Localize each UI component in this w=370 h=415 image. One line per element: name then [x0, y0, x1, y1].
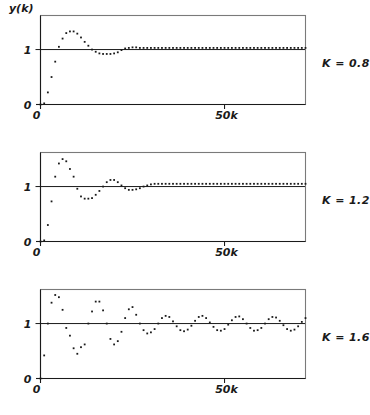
- data-point: [150, 47, 152, 49]
- data-point: [260, 327, 262, 329]
- data-point: [80, 196, 82, 198]
- data-point: [157, 183, 159, 185]
- data-point: [73, 31, 75, 33]
- data-point: [271, 183, 273, 185]
- data-point: [132, 46, 134, 48]
- data-point: [172, 320, 174, 322]
- data-point: [183, 183, 185, 185]
- data-point: [40, 378, 42, 380]
- data-point: [198, 183, 200, 185]
- data-point: [106, 181, 108, 183]
- data-point: [216, 329, 218, 331]
- data-point: [146, 47, 148, 49]
- y-axis-label: y(k): [9, 2, 34, 15]
- data-point: [84, 41, 86, 43]
- data-point: [249, 327, 251, 329]
- data-point: [168, 47, 170, 49]
- data-point: [202, 47, 204, 49]
- data-point: [124, 48, 126, 50]
- data-point: [124, 187, 126, 189]
- data-point: [246, 323, 248, 325]
- data-point: [135, 188, 137, 190]
- data-point: [176, 47, 178, 49]
- data-point: [43, 103, 45, 105]
- xtick-label-50k: 50k: [215, 246, 238, 259]
- data-point: [227, 324, 229, 326]
- data-point: [231, 319, 233, 321]
- data-point: [224, 47, 226, 49]
- data-point: [172, 47, 174, 49]
- series-label-k12: K = 1.2: [322, 194, 370, 207]
- data-point: [286, 328, 288, 330]
- chart-svg-k16: 050k01: [0, 274, 369, 409]
- data-point: [235, 316, 237, 318]
- data-point: [209, 322, 211, 324]
- chart-svg-k08: 050k01y(k): [0, 0, 369, 135]
- data-point: [209, 47, 211, 49]
- data-point: [290, 183, 292, 185]
- data-point: [198, 316, 200, 318]
- data-point: [205, 317, 207, 319]
- data-point: [194, 320, 196, 322]
- data-point: [128, 189, 130, 191]
- data-point: [157, 323, 159, 325]
- data-point: [95, 194, 97, 196]
- data-point: [154, 183, 156, 185]
- data-point: [76, 33, 78, 35]
- data-point: [238, 183, 240, 185]
- data-point: [191, 325, 193, 327]
- data-point: [246, 47, 248, 49]
- ytick-label-0: 0: [24, 236, 32, 249]
- data-point: [91, 49, 93, 51]
- data-point: [224, 328, 226, 330]
- data-point: [290, 330, 292, 332]
- data-point: [176, 325, 178, 327]
- data-point: [172, 183, 174, 185]
- data-point: [98, 301, 100, 303]
- data-point: [143, 47, 145, 49]
- data-point: [87, 323, 89, 325]
- data-point: [268, 47, 270, 49]
- data-point: [257, 183, 259, 185]
- data-point: [271, 316, 273, 318]
- data-point: [95, 51, 97, 53]
- data-point: [216, 47, 218, 49]
- data-point: [264, 323, 266, 325]
- data-point: [242, 47, 244, 49]
- data-point: [283, 183, 285, 185]
- data-point: [238, 47, 240, 49]
- data-point: [91, 197, 93, 199]
- data-point: [271, 47, 273, 49]
- data-point: [62, 38, 64, 40]
- data-point: [187, 47, 189, 49]
- data-point: [102, 186, 104, 188]
- data-point: [80, 346, 82, 348]
- data-point: [213, 326, 215, 328]
- data-point: [202, 315, 204, 317]
- data-point: [157, 47, 159, 49]
- data-point: [132, 189, 134, 191]
- data-point: [91, 311, 93, 313]
- data-point: [113, 179, 115, 181]
- data-point: [191, 47, 193, 49]
- data-point: [264, 47, 266, 49]
- data-point: [69, 168, 71, 170]
- data-point: [47, 92, 49, 94]
- data-point: [65, 160, 67, 162]
- data-point: [40, 241, 42, 243]
- data-point: [58, 163, 60, 165]
- data-point: [168, 316, 170, 318]
- data-point: [110, 179, 112, 181]
- data-point: [220, 330, 222, 332]
- data-point: [62, 158, 64, 160]
- data-point: [139, 187, 141, 189]
- ytick-label-1: 1: [24, 181, 32, 194]
- data-point: [183, 47, 185, 49]
- data-point: [69, 335, 71, 337]
- data-point: [253, 330, 255, 332]
- data-point: [294, 183, 296, 185]
- data-point: [143, 186, 145, 188]
- data-point: [179, 329, 181, 331]
- data-point: [76, 353, 78, 355]
- data-point: [121, 49, 123, 51]
